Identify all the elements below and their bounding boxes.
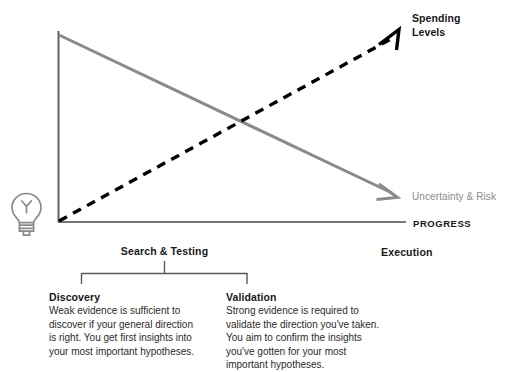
spending-levels-label: Spending Levels: [412, 11, 492, 39]
card-validation: Validation Strong evidence is required t…: [226, 291, 388, 372]
card-discovery-title: Discovery: [49, 291, 201, 303]
lightbulb-icon: [12, 194, 41, 236]
spending-levels-line: [59, 39, 391, 221]
phase-label-search-testing: Search & Testing: [81, 245, 248, 257]
phase-label-execution: Execution: [381, 246, 433, 258]
card-validation-body: Strong evidence is required to validate …: [226, 304, 388, 372]
uncertainty-risk-label: Uncertainty & Risk: [412, 191, 496, 203]
progress-axis-label: PROGRESS: [413, 218, 471, 229]
card-discovery: Discovery Weak evidence is sufficient to…: [49, 291, 201, 358]
card-discovery-body: Weak evidence is sufficient to discover …: [49, 304, 201, 358]
card-validation-title: Validation: [226, 291, 388, 303]
uncertainty-risk-line: [59, 35, 392, 193]
phase-bracket: [82, 261, 248, 284]
